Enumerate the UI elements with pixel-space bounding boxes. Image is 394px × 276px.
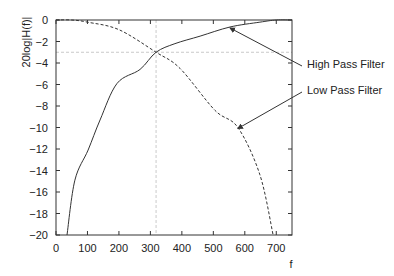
x-tick-label: 300 <box>141 242 159 254</box>
x-tick-label: 600 <box>236 242 254 254</box>
x-tick-label: 700 <box>267 242 285 254</box>
filter-response-chart: 01002003004005006007000−2−4−6−8−10−12−14… <box>0 0 394 276</box>
x-tick-label: 500 <box>204 242 222 254</box>
x-tick-label: 400 <box>173 242 191 254</box>
x-tick-label: 0 <box>53 242 59 254</box>
x-tick-label: 100 <box>78 242 96 254</box>
annotations <box>230 28 302 129</box>
y-axis-label: 20log|H(f)| <box>20 17 32 68</box>
y-tick-label: −18 <box>29 208 48 220</box>
y-tick-label: −4 <box>35 57 48 69</box>
x-tick-label: 200 <box>110 242 128 254</box>
y-tick-label: −6 <box>35 79 48 91</box>
high-pass-label: High Pass Filter <box>307 58 385 70</box>
y-tick-label: −12 <box>29 143 48 155</box>
y-tick-label: −16 <box>29 186 48 198</box>
y-tick-label: −8 <box>35 100 48 112</box>
y-tick-label: −2 <box>35 36 48 48</box>
tick-labels: 01002003004005006007000−2−4−6−8−10−12−14… <box>29 14 285 254</box>
y-tick-label: −20 <box>29 229 48 241</box>
x-axis-label: f <box>289 258 293 270</box>
y-tick-label: −10 <box>29 122 48 134</box>
y-tick-label: 0 <box>42 14 48 26</box>
high-pass-filter-arrow <box>230 28 302 66</box>
reference-lines <box>56 20 292 235</box>
y-tick-label: −14 <box>29 165 48 177</box>
low-pass-label: Low Pass Filter <box>307 84 383 96</box>
